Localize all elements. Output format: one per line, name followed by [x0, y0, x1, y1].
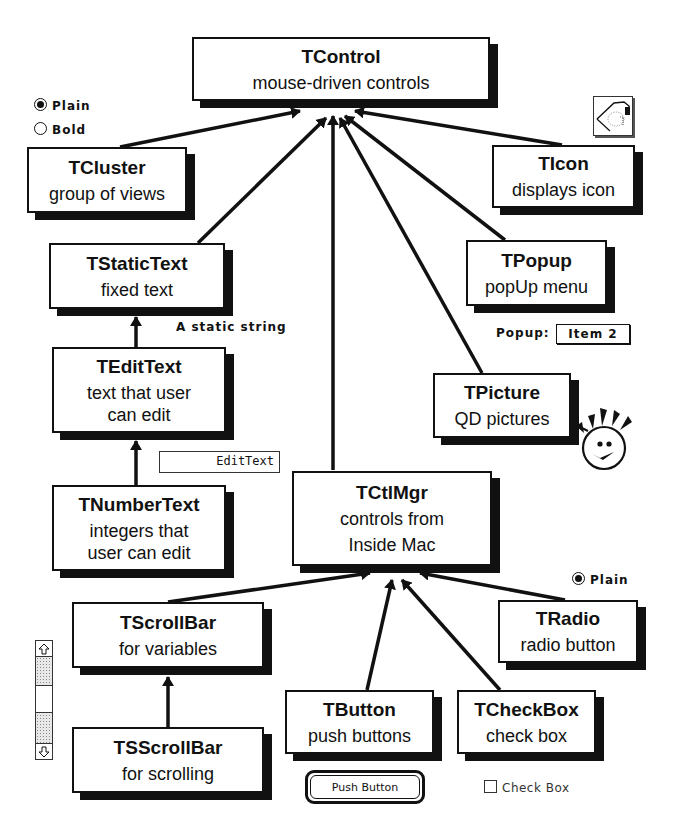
node-description: for variables — [119, 638, 217, 660]
arrow-tscrollbar-tctlmgr — [168, 573, 370, 602]
node-tcluster: TCluster group of views — [27, 147, 187, 213]
arrow-tcheckbox-tctlmgr — [402, 580, 500, 690]
node-description: controls from — [340, 508, 444, 530]
node-description: mouse-driven controls — [252, 72, 429, 94]
node-title: TCtlMgr — [356, 481, 428, 504]
arrow-ticon-tcontrol — [355, 111, 562, 145]
arrow-tradio-tctlmgr — [420, 573, 565, 600]
node-tpopup: TPopup popUp menu — [466, 240, 607, 306]
node-title: TControl — [301, 45, 380, 68]
node-title: TCheckBox — [474, 698, 579, 721]
class-hierarchy-diagram: TControl mouse-driven controls TCluster … — [0, 0, 678, 829]
node-tedittext: TEditText text that user can edit — [52, 347, 226, 433]
node-tscrollbar: TScrollBar for variables — [72, 602, 264, 668]
radio-label: Plain — [52, 99, 91, 113]
checkbox-unchecked-icon — [484, 780, 497, 793]
node-description: integers that — [89, 520, 188, 542]
node-title: TRadio — [536, 607, 600, 630]
radio-selected-icon — [572, 572, 585, 585]
push-button-sample[interactable]: Push Button — [305, 770, 425, 804]
node-description: popUp menu — [485, 276, 588, 298]
radio-selected-icon — [34, 98, 47, 111]
node-tstatictext: TStaticText fixed text — [49, 243, 225, 309]
radio-plain-sample-2[interactable]: Plain — [572, 572, 629, 587]
node-description: for scrolling — [122, 763, 214, 785]
node-description: QD pictures — [454, 408, 549, 430]
node-tpicture: TPicture QD pictures — [433, 373, 571, 438]
node-title: TCluster — [68, 156, 145, 179]
node-tcheckbox: TCheckBox check box — [457, 690, 596, 754]
node-title: TPopup — [501, 249, 572, 272]
node-description: text that user — [87, 382, 191, 404]
node-title: TIcon — [538, 152, 589, 175]
node-tnumbertext: TNumberText integers that user can edit — [52, 485, 226, 571]
node-description: check box — [486, 725, 567, 747]
node-title: TSScrollBar — [114, 736, 223, 759]
radio-plain-sample[interactable]: Plain — [34, 98, 91, 113]
node-tsscrollbar: TSScrollBar for scrolling — [72, 727, 264, 793]
scrollbar-sample[interactable] — [35, 640, 53, 760]
popup-label: Popup: — [496, 326, 550, 340]
radio-label: Plain — [590, 573, 629, 587]
node-tradio: TRadio radio button — [498, 600, 638, 663]
node-description: fixed text — [101, 279, 173, 301]
node-title: TScrollBar — [120, 611, 216, 634]
scrollbar-thumb[interactable] — [36, 685, 52, 713]
node-description: push buttons — [308, 725, 411, 747]
node-tbutton: TButton push buttons — [285, 690, 434, 754]
node-description: group of views — [49, 183, 165, 205]
checkbox-label: Check Box — [502, 781, 570, 795]
node-tcontrol: TControl mouse-driven controls — [192, 37, 490, 101]
node-ticon: TIcon displays icon — [492, 145, 635, 208]
down-arrow-icon[interactable] — [36, 743, 52, 759]
arrow-tcluster-tcontrol — [120, 111, 300, 147]
node-title: TNumberText — [78, 493, 199, 516]
node-title: TEditText — [96, 355, 181, 378]
hand-drawing-icon — [593, 96, 633, 136]
push-button-label: Push Button — [310, 775, 420, 799]
node-title: TButton — [323, 698, 396, 721]
node-description: radio button — [520, 634, 615, 656]
node-description: displays icon — [512, 179, 615, 201]
smiley-face-picture — [568, 406, 648, 472]
check-box-sample[interactable]: Check Box — [484, 780, 570, 795]
node-title: TPicture — [464, 381, 540, 404]
radio-unselected-icon — [34, 122, 47, 135]
arrow-tstatictext-tcontrol — [198, 118, 326, 243]
popup-menu[interactable]: Item 2 — [556, 324, 630, 344]
node-tctlmgr: TCtlMgr controls from Inside Mac — [292, 471, 492, 566]
radio-label: Bold — [52, 123, 86, 137]
node-description: user can edit — [87, 542, 190, 564]
radio-bold-sample[interactable]: Bold — [34, 122, 86, 137]
node-description: can edit — [107, 404, 170, 426]
arrow-tpicture-tcontrol — [340, 118, 482, 373]
node-title: TStaticText — [86, 252, 187, 275]
static-string-sample: A static string — [176, 320, 287, 334]
node-description: Inside Mac — [348, 534, 435, 556]
arrow-tpopup-tcontrol — [345, 116, 505, 240]
up-arrow-icon[interactable] — [36, 641, 52, 657]
edit-text-field[interactable]: EditText — [159, 451, 280, 473]
arrow-tbutton-tctlmgr — [367, 580, 392, 690]
